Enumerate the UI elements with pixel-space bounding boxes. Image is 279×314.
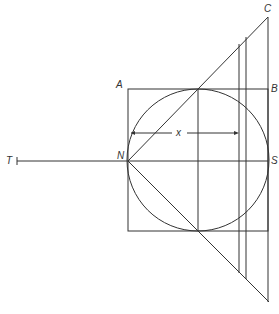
label-N: N — [117, 150, 125, 161]
geometry-diagram: A B C N S T x — [0, 0, 279, 314]
label-T: T — [6, 155, 13, 166]
label-A: A — [115, 79, 123, 90]
label-x: x — [175, 127, 182, 138]
arrowhead-right-icon — [234, 131, 239, 135]
label-B: B — [271, 83, 278, 94]
label-C: C — [264, 3, 272, 14]
label-S: S — [271, 155, 278, 166]
